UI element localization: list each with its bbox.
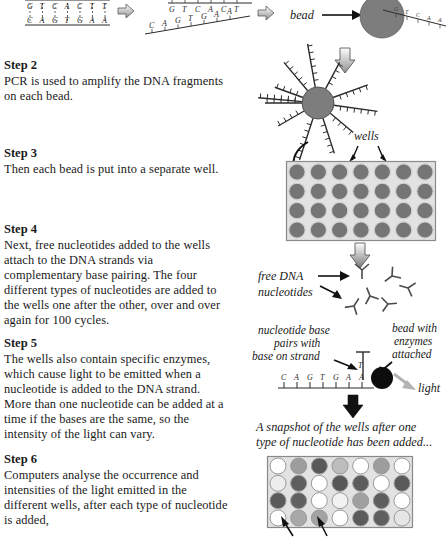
svg-text:A: A <box>437 17 442 23</box>
snapshot-caption-line-1: A snapshot of the wells after one <box>256 420 446 435</box>
well-circle <box>394 510 410 526</box>
free-nucleotides-arrow-1-icon <box>318 271 350 281</box>
svg-text:C: C <box>52 2 58 11</box>
well-circle <box>289 222 305 238</box>
top-strip-diagram: GCTACGATCGTATA GTCACT CAGTGAA bead <box>0 0 446 54</box>
bead-enzymes-label-3: attached <box>392 348 432 360</box>
well-circle <box>395 202 411 218</box>
well-circle <box>394 458 410 474</box>
well-circle <box>353 458 369 474</box>
well-circle <box>353 222 369 238</box>
svg-text:T: T <box>65 16 70 25</box>
light-label: light <box>418 381 441 395</box>
step-block-3: Step 3 Then each bead is put into a sepa… <box>4 146 219 177</box>
well-circle <box>310 202 326 218</box>
free-nucleotides-label-2: nucleotides <box>258 285 313 299</box>
svg-text:T: T <box>405 9 409 15</box>
well-circle <box>310 222 326 238</box>
free-nucleotides-arrow-2-icon <box>320 286 342 299</box>
step-body-5: The wells also contain specific enzymes,… <box>4 352 230 443</box>
step-block-2: Step 2 PCR is used to amplify the DNA fr… <box>4 58 230 104</box>
well-circle <box>417 183 433 199</box>
svg-text:C: C <box>281 373 287 382</box>
well-circle <box>374 202 390 218</box>
well-circle <box>331 202 347 218</box>
svg-text:T: T <box>90 2 95 11</box>
svg-text:G: G <box>394 6 399 12</box>
svg-text:G: G <box>169 5 175 14</box>
step-body-2: PCR is used to amplify the DNA fragments… <box>4 74 230 104</box>
svg-text:A: A <box>161 19 167 28</box>
svg-text:T: T <box>188 14 193 23</box>
well-circle <box>417 222 433 238</box>
amplified-bead-circle <box>302 87 334 119</box>
flow-arrow-3-icon <box>340 395 366 419</box>
step-title-3: Step 3 <box>4 146 219 161</box>
pairing-label-3: base on strand <box>252 350 320 362</box>
well-circle <box>310 164 326 180</box>
svg-text:G: G <box>201 12 207 21</box>
well-circle <box>289 183 305 199</box>
well-circle <box>417 164 433 180</box>
well-circle <box>332 475 348 491</box>
svg-text:G: G <box>307 373 313 382</box>
svg-text:A: A <box>345 373 351 382</box>
svg-text:G: G <box>333 373 339 382</box>
bottom-arrow-2-icon <box>317 516 327 536</box>
svg-text:A: A <box>39 16 45 25</box>
process-arrow-2-icon <box>258 6 274 20</box>
well-circle <box>353 493 369 509</box>
svg-text:G: G <box>52 16 58 25</box>
step-block-4: Step 4 Next, free nucleotides added to t… <box>4 222 230 329</box>
bead-enzymes-label-2: enzymes <box>394 335 433 348</box>
well-circle <box>270 493 286 509</box>
svg-text:C: C <box>77 2 83 11</box>
svg-text:A: A <box>358 373 364 382</box>
svg-text:A: A <box>207 5 213 14</box>
svg-text:A: A <box>213 10 219 19</box>
well-circle <box>353 475 369 491</box>
well-circle <box>289 202 305 218</box>
well-circle <box>311 458 327 474</box>
svg-text:A: A <box>293 373 299 382</box>
well-circle <box>291 475 307 491</box>
svg-text:A: A <box>64 2 70 11</box>
well-circle <box>373 475 389 491</box>
step-body-3: Then each bead is put into a separate we… <box>4 162 219 177</box>
step-title-2: Step 2 <box>4 58 230 73</box>
well-circle <box>353 164 369 180</box>
process-arrow-1-icon <box>118 4 134 18</box>
wells-label: wells <box>354 129 379 143</box>
bead-pointer-arrow-icon <box>322 10 362 20</box>
well-circle <box>373 458 389 474</box>
well-circle <box>394 475 410 491</box>
svg-text:A: A <box>226 7 232 16</box>
well-circle <box>270 458 286 474</box>
snapshot-caption-line-2: type of nucleotide has been added... <box>256 435 446 450</box>
svg-text:A: A <box>89 16 95 25</box>
svg-text:A: A <box>101 16 107 25</box>
pairing-diagram: nucleotide base pairs with base on stran… <box>252 322 446 392</box>
free-nucleotides-diagram: free DNA nucleotides <box>258 266 446 326</box>
well-circle <box>353 183 369 199</box>
step-block-5: Step 5 The wells also contain specific e… <box>4 336 230 443</box>
svg-text:C: C <box>416 12 421 18</box>
bead-enzymes-label-1: bead with <box>392 322 437 334</box>
well-circle <box>374 222 390 238</box>
well-circle <box>291 493 307 509</box>
wells-callout: wells <box>330 128 446 164</box>
well-circle <box>331 183 347 199</box>
bottom-pointer-arrows <box>275 516 365 538</box>
free-nucleotides-label-1: free DNA <box>258 269 304 283</box>
step-title-6: Step 6 <box>4 452 230 467</box>
well-circle <box>289 164 305 180</box>
svg-text:G: G <box>175 16 181 25</box>
snapshot-caption: A snapshot of the wells after one type o… <box>256 420 446 449</box>
template-strand: CAGTGAA <box>278 373 374 388</box>
well-plate-top <box>286 161 436 241</box>
well-circle <box>270 475 286 491</box>
well-circle <box>395 183 411 199</box>
well-circle <box>332 458 348 474</box>
well-circle <box>395 222 411 238</box>
svg-text:G: G <box>77 16 83 25</box>
